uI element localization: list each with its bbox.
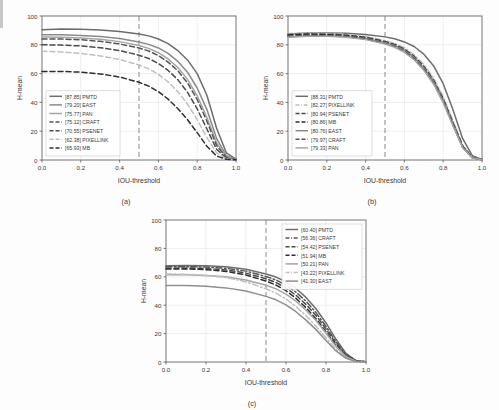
- svg-text:0.0: 0.0: [38, 164, 47, 171]
- svg-text:0.6: 0.6: [282, 366, 291, 373]
- svg-text:40: 40: [31, 99, 38, 106]
- chart-panel-a: 0.00.20.40.60.81.0020406080100IOU-thresh…: [6, 4, 246, 206]
- svg-text:0.8: 0.8: [193, 164, 202, 171]
- svg-text:100: 100: [27, 13, 38, 20]
- svg-text:80: 80: [155, 245, 162, 252]
- svg-text:0.2: 0.2: [322, 164, 331, 171]
- svg-text:(a): (a): [122, 197, 131, 206]
- svg-text:0.6: 0.6: [154, 164, 163, 171]
- svg-text:0.0: 0.0: [284, 164, 293, 171]
- svg-text:1.0: 1.0: [362, 366, 371, 373]
- svg-text:[50.21] PAN: [50.21] PAN: [301, 261, 329, 267]
- svg-text:(c): (c): [248, 399, 256, 408]
- chart-c-canvas: 0.00.20.40.60.81.0020406080100IOU-thresh…: [128, 208, 376, 408]
- svg-text:1.0: 1.0: [478, 164, 487, 171]
- svg-text:0.8: 0.8: [439, 164, 448, 171]
- svg-text:0.6: 0.6: [400, 164, 409, 171]
- svg-text:IOU-threshold: IOU-threshold: [245, 379, 288, 386]
- svg-text:IOU-threshold: IOU-threshold: [364, 177, 407, 184]
- svg-text:[79.97] CRAFT: [79.97] CRAFT: [311, 137, 346, 143]
- chart-panel-c: 0.00.20.40.60.81.0020406080100IOU-thresh…: [128, 208, 376, 408]
- svg-text:[62.38] PIXELLINK: [62.38] PIXELLINK: [65, 137, 109, 143]
- svg-text:[82.27] PIXELLINK: [82.27] PIXELLINK: [311, 102, 355, 108]
- svg-text:0.4: 0.4: [115, 164, 124, 171]
- svg-text:H-mean: H-mean: [140, 279, 147, 303]
- svg-text:1.0: 1.0: [232, 164, 241, 171]
- svg-text:[54.42] PSENET: [54.42] PSENET: [301, 244, 340, 250]
- svg-text:(b): (b): [368, 197, 377, 206]
- svg-text:[87.85] PMTD: [87.85] PMTD: [65, 94, 97, 100]
- svg-text:[80.76] EAST: [80.76] EAST: [311, 128, 343, 134]
- svg-text:[75.77] PAN: [75.77] PAN: [65, 111, 93, 117]
- svg-text:[80.86] MB: [80.86] MB: [311, 119, 337, 125]
- svg-text:[79.20] EAST: [79.20] EAST: [65, 102, 97, 108]
- chart-panel-b: 0.00.20.40.60.81.0020406080100IOU-thresh…: [252, 4, 492, 206]
- svg-text:0.4: 0.4: [361, 164, 370, 171]
- svg-text:0.8: 0.8: [322, 366, 331, 373]
- svg-text:H-mean: H-mean: [262, 76, 269, 100]
- svg-text:0: 0: [158, 359, 162, 366]
- svg-text:[60.40] PMTD: [60.40] PMTD: [301, 227, 333, 233]
- svg-text:20: 20: [31, 128, 38, 135]
- svg-text:0.4: 0.4: [242, 366, 251, 373]
- svg-text:[56.36] CRAFT: [56.36] CRAFT: [301, 235, 336, 241]
- svg-text:40: 40: [277, 99, 284, 106]
- svg-text:20: 20: [277, 128, 284, 135]
- svg-text:0.2: 0.2: [202, 366, 211, 373]
- svg-text:[79.33] PAN: [79.33] PAN: [311, 145, 339, 151]
- svg-text:0: 0: [34, 157, 38, 164]
- svg-text:40: 40: [155, 302, 162, 309]
- svg-text:0.0: 0.0: [162, 366, 171, 373]
- chart-b-canvas: 0.00.20.40.60.81.0020406080100IOU-thresh…: [252, 4, 492, 206]
- svg-text:[70.55] PSENET: [70.55] PSENET: [65, 128, 104, 134]
- svg-text:80: 80: [277, 41, 284, 48]
- scan-artifact-edge: [0, 0, 3, 28]
- svg-text:80: 80: [31, 41, 38, 48]
- svg-text:60: 60: [277, 70, 284, 77]
- svg-text:20: 20: [155, 330, 162, 337]
- svg-text:[43.22] PIXELLINK: [43.22] PIXELLINK: [301, 270, 345, 276]
- chart-a-canvas: 0.00.20.40.60.81.0020406080100IOU-thresh…: [6, 4, 246, 206]
- svg-text:0: 0: [280, 157, 284, 164]
- svg-text:[88.31] PMTD: [88.31] PMTD: [311, 94, 343, 100]
- svg-text:[65.93] MB: [65.93] MB: [65, 145, 91, 151]
- svg-text:0.2: 0.2: [76, 164, 85, 171]
- svg-text:100: 100: [151, 217, 162, 224]
- svg-text:[75.12] CRAFT: [75.12] CRAFT: [65, 119, 100, 125]
- svg-text:60: 60: [155, 273, 162, 280]
- svg-text:60: 60: [31, 70, 38, 77]
- svg-text:IOU-threshold: IOU-threshold: [118, 177, 161, 184]
- svg-text:[80.94] PSENET: [80.94] PSENET: [311, 111, 350, 117]
- svg-text:100: 100: [273, 13, 284, 20]
- svg-text:[51.94] MB: [51.94] MB: [301, 253, 327, 259]
- svg-text:H-mean: H-mean: [16, 76, 23, 100]
- svg-text:[41.30] EAST: [41.30] EAST: [301, 278, 333, 284]
